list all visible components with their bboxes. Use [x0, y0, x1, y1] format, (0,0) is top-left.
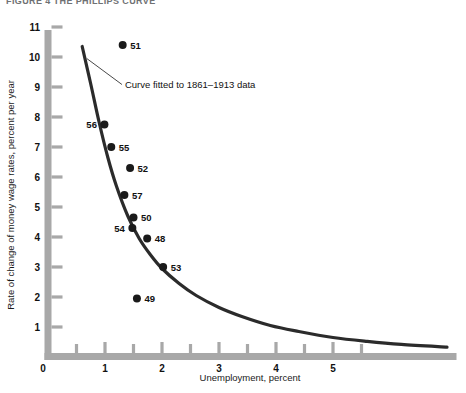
x-axis-bar: [45, 353, 457, 360]
y-tick-mark: [52, 175, 63, 178]
data-point-label: 49: [144, 293, 155, 304]
y-axis-ticks: [52, 25, 63, 328]
x-minor-tick-mark: [132, 344, 135, 353]
x-tick-mark: [331, 342, 334, 353]
x-tick-mark: [103, 342, 106, 353]
x-tick-mark: [217, 342, 220, 353]
y-tick-mark: [52, 295, 63, 298]
x-tick-label: 0: [40, 363, 46, 374]
annotation-group: Curve fitted to 1861–1913 data: [125, 79, 256, 90]
y-tick-label: 4: [34, 232, 40, 243]
x-minor-tick-mark: [75, 344, 78, 353]
data-point: [120, 191, 128, 199]
data-point: [130, 214, 138, 222]
data-point-label: 52: [138, 163, 149, 174]
x-tick-label: 2: [159, 363, 165, 374]
x-tick-label: 1: [102, 363, 108, 374]
x-axis-title: Unemployment, percent: [200, 372, 301, 383]
y-tick-mark: [52, 325, 63, 328]
data-point: [119, 41, 127, 49]
y-tick-mark: [52, 85, 63, 88]
y-tick-label: 6: [34, 172, 40, 183]
annotation-leader-line: [87, 59, 122, 85]
data-point-label: 50: [141, 212, 152, 223]
y-tick-label: 3: [34, 262, 40, 273]
data-point: [133, 295, 141, 303]
y-tick-mark: [52, 235, 63, 238]
annotation-leader: [87, 59, 122, 85]
x-minor-tick-mark: [246, 344, 249, 353]
x-axis-ticks: [75, 342, 363, 353]
x-minor-tick-mark: [189, 344, 192, 353]
data-point-label: 48: [155, 233, 166, 244]
x-tick-mark: [274, 342, 277, 353]
data-point-label: 51: [130, 40, 141, 51]
annotation-text: Curve fitted to 1861–1913 data: [125, 79, 256, 90]
y-tick-mark: [52, 205, 63, 208]
data-point-label: 53: [171, 262, 182, 273]
data-point-label: 56: [86, 119, 97, 130]
data-point: [143, 235, 151, 243]
y-tick-label: 9: [34, 82, 40, 93]
figure-container: FIGURE 4 THE PHILLIPS CURVE 123456789101…: [0, 0, 466, 393]
y-tick-label: 8: [34, 112, 40, 123]
y-tick-label: 10: [29, 52, 41, 63]
y-tick-mark: [52, 145, 63, 148]
data-point-label: 55: [119, 142, 130, 153]
data-point: [100, 121, 108, 129]
y-tick-label: 11: [29, 22, 40, 33]
x-tick-label: 5: [330, 363, 336, 374]
data-point-label: 54: [114, 223, 125, 234]
y-axis-tick-labels: 1234567891011: [29, 22, 41, 333]
y-tick-label: 2: [34, 292, 40, 303]
y-tick-label: 5: [34, 202, 40, 213]
y-tick-label: 1: [34, 322, 40, 333]
data-point-label: 57: [132, 190, 143, 201]
y-tick-mark: [52, 115, 63, 118]
data-point: [159, 263, 167, 271]
data-point: [128, 224, 136, 232]
x-minor-tick-mark: [360, 344, 363, 353]
y-tick-mark: [52, 55, 63, 58]
data-point: [126, 164, 134, 172]
phillips-curve-chart: 1234567891011 012345 Curve fitted to 186…: [0, 0, 466, 393]
x-minor-tick-mark: [303, 344, 306, 353]
y-tick-mark: [52, 25, 63, 28]
y-axis-bar: [45, 30, 52, 360]
x-tick-mark: [160, 342, 163, 353]
y-tick-mark: [52, 265, 63, 268]
data-point: [107, 143, 115, 151]
y-tick-label: 7: [34, 142, 40, 153]
y-axis-title: Rate of change of money wage rates, perc…: [5, 80, 16, 310]
